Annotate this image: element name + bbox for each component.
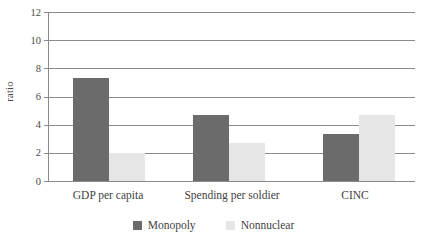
bar: [359, 115, 395, 181]
bar-chart: ratio 121086420 GDP per capitaSpending p…: [0, 0, 427, 242]
x-axis-category-label: CINC: [275, 189, 427, 201]
y-axis-tick-mark: [44, 68, 48, 69]
bar: [193, 115, 229, 181]
bar: [109, 153, 145, 181]
y-axis-tick-label: 4: [36, 124, 41, 125]
legend-label: Monopoly: [148, 219, 196, 231]
gridline: [48, 40, 415, 41]
y-axis-tick-label: 2: [36, 152, 41, 153]
y-axis-tick-mark: [44, 97, 48, 98]
y-axis-tick-mark: [44, 125, 48, 126]
legend-item: Nonnuclear: [226, 219, 295, 231]
gridline: [48, 181, 415, 182]
legend-label: Nonnuclear: [241, 219, 295, 231]
y-axis-tick-mark: [44, 181, 48, 182]
legend-swatch-icon: [226, 221, 235, 230]
y-axis-tick-mark: [44, 12, 48, 13]
legend-swatch-icon: [133, 221, 142, 230]
y-axis-tick-mark: [44, 40, 48, 41]
chart-legend: MonopolyNonnuclear: [0, 219, 427, 231]
y-axis-tick-label: 10: [31, 40, 42, 41]
gridline: [48, 68, 415, 69]
y-axis-tick-label: 12: [31, 12, 42, 13]
y-axis-tick-label: 6: [36, 96, 41, 97]
bar: [229, 143, 265, 181]
y-axis-title: ratio: [4, 67, 15, 117]
plot-area: 121086420: [48, 12, 415, 181]
y-axis-tick-label: 0: [36, 181, 41, 182]
bar: [73, 78, 109, 181]
bar: [323, 134, 359, 181]
gridline: [48, 12, 415, 13]
y-axis-tick-label: 8: [36, 68, 41, 69]
y-axis-tick-mark: [44, 153, 48, 154]
legend-item: Monopoly: [133, 219, 196, 231]
